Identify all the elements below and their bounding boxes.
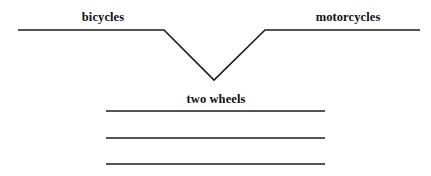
semantic-feature-diagram: bicycles motorcycles two wheels xyxy=(0,0,431,176)
label-bicycles: bicycles xyxy=(82,11,124,24)
notch-polyline xyxy=(18,30,420,80)
label-motorcycles: motorcycles xyxy=(316,11,381,24)
diagram-canvas xyxy=(0,0,431,176)
label-two-wheels: two wheels xyxy=(187,93,246,106)
